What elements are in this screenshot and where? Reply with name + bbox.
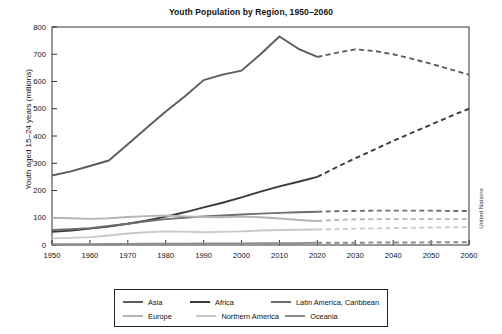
y-tick-label: 800 (33, 23, 46, 32)
series-line-northern-america (52, 229, 317, 238)
x-tick-label: 1990 (195, 251, 212, 260)
legend-label-asia: Asia (148, 298, 162, 307)
x-tick-label: 1950 (44, 251, 61, 260)
legend-swatch-europe (123, 315, 143, 317)
legend-label-latin-america-caribbean: Latin America, Caribbean (296, 298, 379, 307)
series-line-africa-projected (317, 109, 469, 177)
y-tick-label: 700 (33, 50, 46, 59)
series-line-africa (52, 177, 317, 232)
y-tick-label: 0 (42, 241, 46, 250)
legend-item-latin-america-caribbean: Latin America, Caribbean (271, 298, 379, 307)
x-tick-label: 1980 (157, 251, 174, 260)
legend-item-oceania: Oceania (285, 312, 379, 321)
data-series-group (52, 37, 469, 245)
y-tick-label: 600 (33, 77, 46, 86)
series-line-asia (52, 37, 317, 176)
legend-swatch-latin-america-caribbean (271, 301, 291, 303)
legend-row: Asia Africa Latin America, Caribbean (123, 295, 379, 309)
legend-row: Europe Northern America Oceania (123, 309, 379, 323)
legend-label-oceania: Oceania (310, 312, 338, 321)
y-tick-label: 400 (33, 132, 46, 141)
series-line-latin-america-caribbean-projected (317, 211, 469, 212)
series-line-northern-america-projected (317, 227, 469, 229)
chart-legend: Asia Africa Latin America, Caribbean Eur… (114, 289, 388, 327)
series-line-europe-projected (317, 219, 469, 221)
x-tick-label: 2030 (347, 251, 364, 260)
x-tick-label: 2060 (461, 251, 478, 260)
legend-item-asia: Asia (123, 298, 190, 307)
x-tick-label: 2020 (309, 251, 326, 260)
series-line-latin-america-caribbean (52, 212, 317, 230)
y-tick-label: 300 (33, 159, 46, 168)
x-tick-label: 2010 (271, 251, 288, 260)
legend-swatch-oceania (285, 315, 305, 317)
x-tick-label: 1970 (119, 251, 136, 260)
y-tick-label: 200 (33, 186, 46, 195)
legend-label-africa: Africa (215, 298, 234, 307)
series-line-asia-projected (317, 49, 469, 74)
legend-swatch-africa (190, 301, 210, 303)
chart-figure: Youth Population by Region, 1950–2060 Yo… (0, 0, 502, 334)
plot-area: 0100200300400500600700800 19501960197019… (0, 0, 502, 334)
legend-label-europe: Europe (148, 312, 172, 321)
legend-item-africa: Africa (190, 298, 271, 307)
y-tick-label: 500 (33, 104, 46, 113)
legend-item-northern-america: Northern America (196, 312, 285, 321)
y-tick-label: 100 (33, 213, 46, 222)
x-tick-label: 2000 (233, 251, 250, 260)
x-tick-label: 2040 (385, 251, 402, 260)
y-axis-ticks: 0100200300400500600700800 (33, 23, 57, 250)
legend-label-northern-america: Northern America (221, 312, 279, 321)
x-tick-label: 2050 (423, 251, 440, 260)
legend-swatch-northern-america (196, 315, 216, 317)
series-line-oceania (52, 243, 317, 244)
x-tick-label: 1960 (81, 251, 98, 260)
legend-item-europe: Europe (123, 312, 196, 321)
legend-swatch-asia (123, 301, 143, 303)
